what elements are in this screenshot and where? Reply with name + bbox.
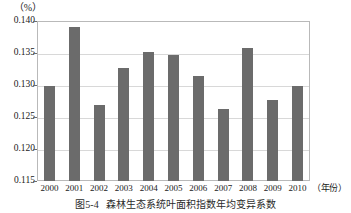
caption-number: 图5-4 <box>75 199 98 210</box>
bar <box>44 86 55 181</box>
y-axis-tick-mark <box>33 149 37 150</box>
bar <box>168 55 179 181</box>
figure-caption: 图5-4森林生态系统叶面积指数年均变异系数 <box>0 199 351 211</box>
figure-container: （%） 0.1150.1200.1250.1300.1350.140 20002… <box>0 0 351 213</box>
y-axis-tick-mark <box>33 85 37 86</box>
bar <box>292 86 303 181</box>
y-axis-tick-label: 0.115 <box>0 176 35 186</box>
caption-text: 森林生态系统叶面积指数年均变异系数 <box>106 199 276 210</box>
x-axis-title: （年份） <box>312 184 347 193</box>
y-axis-tick-mark <box>33 53 37 54</box>
bar <box>143 52 154 181</box>
y-axis-tick-label: 0.120 <box>0 144 35 154</box>
y-axis-tick-label: 0.135 <box>0 48 35 58</box>
y-axis-tick-mark <box>33 181 37 182</box>
bar <box>94 105 105 181</box>
bar <box>193 76 204 181</box>
bar <box>242 48 253 181</box>
bar <box>69 27 80 181</box>
bar <box>267 100 278 181</box>
y-axis-tick-mark <box>33 117 37 118</box>
y-axis-tick-label: 0.125 <box>0 112 35 122</box>
bars-layer <box>37 21 310 181</box>
bar <box>118 68 129 181</box>
y-axis-unit-label: （%） <box>14 0 41 14</box>
y-axis-tick-label: 0.140 <box>0 16 35 26</box>
y-axis-tick-mark <box>33 21 37 22</box>
bar <box>218 109 229 181</box>
x-axis-tick-label: 2010 <box>283 184 313 193</box>
y-axis-tick-label: 0.130 <box>0 80 35 90</box>
